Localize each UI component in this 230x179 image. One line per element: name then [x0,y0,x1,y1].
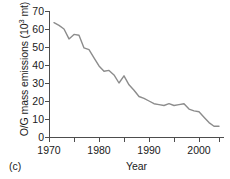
x-tick-1975 [74,138,75,142]
x-tick-1980 [99,138,100,142]
x-tick-label-1970: 1970 [29,144,69,156]
x-tick-1985 [124,138,125,142]
x-tick-1995 [174,138,175,142]
x-tick-2004 [219,138,220,142]
y-tick-label-50: 50 [4,42,44,52]
x-tick-label-1990: 1990 [129,144,169,156]
y-tick-label-60: 60 [4,24,44,34]
x-tick-label-2000: 2000 [179,144,219,156]
y-tick-label-0: 0 [4,132,44,142]
x-tick-label-1980: 1980 [79,144,119,156]
chart-figure: O/G mass emissions (103 mt) 010203040506… [0,0,230,179]
y-tick-label-20: 20 [4,96,44,106]
plot-area [49,11,223,137]
y-tick-label-70: 70 [4,6,44,16]
x-axis-spine [49,137,224,138]
x-tick-1990 [149,138,150,142]
y-axis-label-exponent: 3 [17,19,26,23]
x-tick-1970 [49,138,50,142]
y-tick-label-30: 30 [4,78,44,88]
panel-label: (c) [9,160,21,172]
x-axis-label: Year [49,160,224,172]
y-tick-label-10: 10 [4,114,44,124]
x-tick-2000 [199,138,200,142]
y-tick-label-40: 40 [4,60,44,70]
data-line-og-mass-emissions [54,23,219,127]
